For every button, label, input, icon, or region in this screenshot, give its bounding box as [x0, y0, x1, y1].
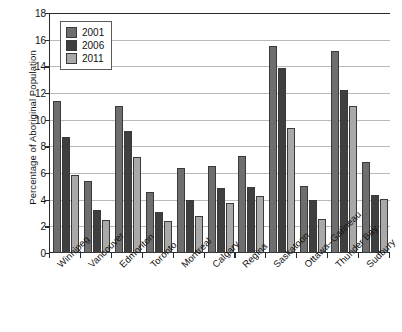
y-tick-label-2: 2 — [6, 221, 46, 232]
bar-2006-ottawa-gatineau — [309, 200, 317, 253]
bar-2011-saskatoon — [287, 128, 295, 253]
x-tick-mark — [234, 253, 235, 258]
bar-group — [238, 13, 265, 253]
legend-label-2006: 2006 — [82, 40, 104, 51]
y-tick-label-12: 12 — [6, 88, 46, 99]
bar-2006-regina — [247, 187, 255, 253]
legend-swatch-icon-2006 — [66, 40, 77, 51]
bar-2001-saskatoon — [269, 46, 277, 253]
y-tick-mark-14 — [45, 66, 49, 67]
bar-group — [115, 13, 142, 253]
bar-2006-saskatoon — [278, 68, 286, 253]
y-tick-label-0: 0 — [6, 248, 46, 259]
y-tick-label-18: 18 — [6, 8, 46, 19]
legend-swatch-icon-2011 — [66, 53, 77, 64]
legend: 200120062011 — [60, 21, 112, 70]
bar-2001-winnipeg — [53, 101, 61, 253]
x-tick-mark — [80, 253, 81, 258]
y-tick-mark-2 — [45, 226, 49, 227]
x-tick-mark — [173, 253, 174, 258]
y-tick-label-10: 10 — [6, 114, 46, 125]
x-tick-mark — [265, 253, 266, 258]
bar-2001-regina — [238, 156, 246, 253]
x-tick-mark — [389, 253, 390, 258]
bar-2011-thunder-bay — [349, 106, 357, 253]
bar-group — [269, 13, 296, 253]
x-tick-mark — [142, 253, 143, 258]
bar-group — [362, 13, 389, 253]
bar-2006-calgary — [217, 188, 225, 253]
y-tick-mark-16 — [45, 40, 49, 41]
y-tick-label-6: 6 — [6, 168, 46, 179]
x-tick-mark — [327, 253, 328, 258]
y-tick-label-8: 8 — [6, 141, 46, 152]
legend-swatch-icon-2001 — [66, 27, 77, 38]
y-tick-mark-10 — [45, 120, 49, 121]
bar-chart: Percentage of Aboriginal Population 0246… — [0, 0, 402, 332]
bar-group — [146, 13, 173, 253]
legend-item-2011[interactable]: 2011 — [66, 52, 104, 65]
x-tick-mark — [49, 253, 50, 258]
x-tick-mark — [111, 253, 112, 258]
bar-group — [208, 13, 235, 253]
bar-2001-montreal — [177, 168, 185, 253]
bar-2006-montreal — [186, 200, 194, 253]
y-tick-mark-12 — [45, 93, 49, 94]
bar-group — [177, 13, 204, 253]
x-tick-mark — [358, 253, 359, 258]
bar-2001-thunder-bay — [331, 51, 339, 253]
y-axis-title: Percentage of Aboriginal Population — [27, 13, 38, 243]
legend-item-2001[interactable]: 2001 — [66, 26, 104, 39]
y-tick-label-4: 4 — [6, 194, 46, 205]
y-tick-mark-8 — [45, 146, 49, 147]
y-tick-mark-4 — [45, 200, 49, 201]
legend-item-2006[interactable]: 2006 — [66, 39, 104, 52]
x-tick-mark — [204, 253, 205, 258]
y-tick-mark-18 — [45, 13, 49, 14]
y-tick-mark-6 — [45, 173, 49, 174]
y-tick-label-16: 16 — [6, 34, 46, 45]
x-tick-mark — [296, 253, 297, 258]
bar-2006-winnipeg — [62, 137, 70, 253]
bar-group — [300, 13, 327, 253]
legend-label-2011: 2011 — [82, 53, 104, 64]
y-tick-label-14: 14 — [6, 61, 46, 72]
legend-label-2001: 2001 — [82, 27, 104, 38]
bar-2006-edmonton — [124, 131, 132, 253]
